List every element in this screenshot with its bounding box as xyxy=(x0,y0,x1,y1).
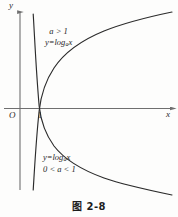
annotation-upper-equation: y=logax xyxy=(45,37,72,49)
figure-caption: 图 2-8 xyxy=(0,198,178,213)
annotation-a-between-zero-and-one: y=logax 0 < a < 1 xyxy=(43,152,76,174)
x-tick-label-one: 1 xyxy=(38,112,42,120)
plot-canvas xyxy=(0,0,178,217)
annotation-upper-equation-arg: x xyxy=(68,37,72,47)
logarithm-figure: y x O 1 a > 1 y=logax y=logax 0 < a < 1 … xyxy=(0,0,178,217)
annotation-lower-condition: 0 < a < 1 xyxy=(43,164,76,175)
annotation-lower-equation-prefix: y=log xyxy=(43,152,63,162)
y-axis-label: y xyxy=(9,1,13,10)
annotation-lower-equation: y=logax xyxy=(43,152,76,164)
annotation-upper-condition: a > 1 xyxy=(45,26,72,37)
annotation-upper-equation-prefix: y=log xyxy=(45,37,65,47)
origin-label: O xyxy=(9,111,16,120)
annotation-a-greater-than-one: a > 1 y=logax xyxy=(45,26,72,48)
annotation-lower-equation-arg: x xyxy=(66,152,70,162)
x-axis-label: x xyxy=(166,110,170,119)
